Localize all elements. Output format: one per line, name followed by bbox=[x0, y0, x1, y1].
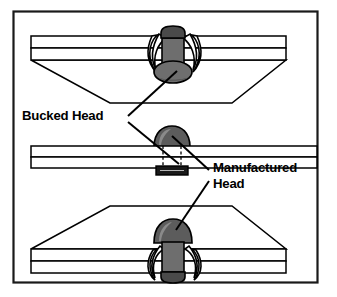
label-bucked-head: Bucked Head bbox=[22, 108, 103, 123]
bottom-view-bucked-tail bbox=[161, 272, 185, 283]
bottom-view-rivet-shank bbox=[162, 242, 184, 272]
bottom-view-plate-lower bbox=[31, 261, 286, 273]
middle-view-plate-upper bbox=[31, 146, 317, 157]
label-manufactured-head-line1: Manufactured bbox=[213, 160, 297, 175]
figure-root: Bucked Head Manufactured Head bbox=[0, 0, 337, 297]
label-manufactured-head-line2: Head bbox=[213, 176, 245, 191]
top-view-bucked-head bbox=[154, 61, 192, 83]
top-view-plate-lower bbox=[31, 48, 286, 60]
top-view-rivet-top-head bbox=[161, 26, 185, 38]
rivet-diagram: Bucked Head Manufactured Head bbox=[0, 0, 337, 297]
